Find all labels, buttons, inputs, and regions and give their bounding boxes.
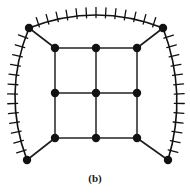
boundary-hatch-tick bbox=[105, 8, 106, 18]
graph-vertex bbox=[51, 134, 59, 142]
boundary-hatch-tick bbox=[8, 84, 18, 85]
figure-caption: (b) bbox=[0, 172, 190, 185]
boundary-hatch-tick bbox=[174, 84, 184, 85]
graph-diagram-svg bbox=[0, 0, 190, 196]
graph-vertex bbox=[51, 89, 59, 97]
graph-vertex bbox=[164, 156, 172, 164]
graph-vertex bbox=[92, 44, 100, 52]
boundary-hatch-tick bbox=[174, 113, 184, 114]
graph-vertex bbox=[25, 24, 33, 32]
figure-container: (b) bbox=[0, 0, 190, 196]
graph-vertex bbox=[23, 156, 31, 164]
graph-vertex bbox=[92, 89, 100, 97]
graph-vertex bbox=[133, 44, 141, 52]
boundary-hatch-tick bbox=[86, 8, 87, 18]
graph-vertex bbox=[133, 134, 141, 142]
graph-vertex bbox=[159, 24, 167, 32]
graph-vertex bbox=[92, 134, 100, 142]
graph-vertex bbox=[133, 89, 141, 97]
graph-vertex bbox=[51, 44, 59, 52]
